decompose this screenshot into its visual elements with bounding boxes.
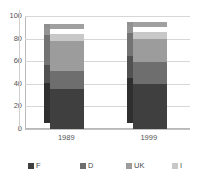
x-tick-label: 1999 — [108, 133, 191, 143]
plot-area — [25, 16, 190, 129]
bar-group[interactable] — [44, 28, 84, 129]
x-axis: 19891999 — [25, 133, 196, 145]
legend-label: I — [180, 162, 182, 170]
bar-stack — [133, 32, 167, 129]
chart-legend: FDUKI — [0, 161, 204, 173]
bar-top-face — [50, 24, 84, 29]
legend-item[interactable]: F — [28, 161, 41, 171]
bar-top-face — [133, 22, 167, 27]
legend-label: D — [88, 162, 93, 170]
bar-segment[interactable] — [50, 34, 84, 41]
legend-swatch-icon — [126, 163, 132, 169]
legend-item[interactable]: I — [172, 161, 182, 171]
legend-label: UK — [134, 162, 144, 170]
x-tick-label: 1989 — [25, 133, 108, 143]
bar-segment[interactable] — [50, 41, 84, 72]
bar-segment[interactable] — [133, 39, 167, 63]
bar-group[interactable] — [127, 26, 167, 129]
legend-label: F — [36, 162, 41, 170]
legend-swatch-icon — [80, 163, 86, 169]
legend-item[interactable]: D — [80, 161, 93, 171]
bar-segment[interactable] — [133, 84, 167, 129]
bar-segment[interactable] — [133, 62, 167, 83]
bar-segment[interactable] — [50, 71, 84, 89]
legend-item[interactable]: UK — [126, 161, 144, 171]
stacked-bar-chart: 020406080100 19891999 FDUKI — [0, 0, 204, 180]
gridline — [25, 16, 190, 17]
bar-stack — [50, 34, 84, 129]
bar-segment[interactable] — [133, 32, 167, 39]
legend-swatch-icon — [172, 163, 178, 169]
legend-swatch-icon — [28, 163, 34, 169]
bar-segment[interactable] — [50, 89, 84, 129]
